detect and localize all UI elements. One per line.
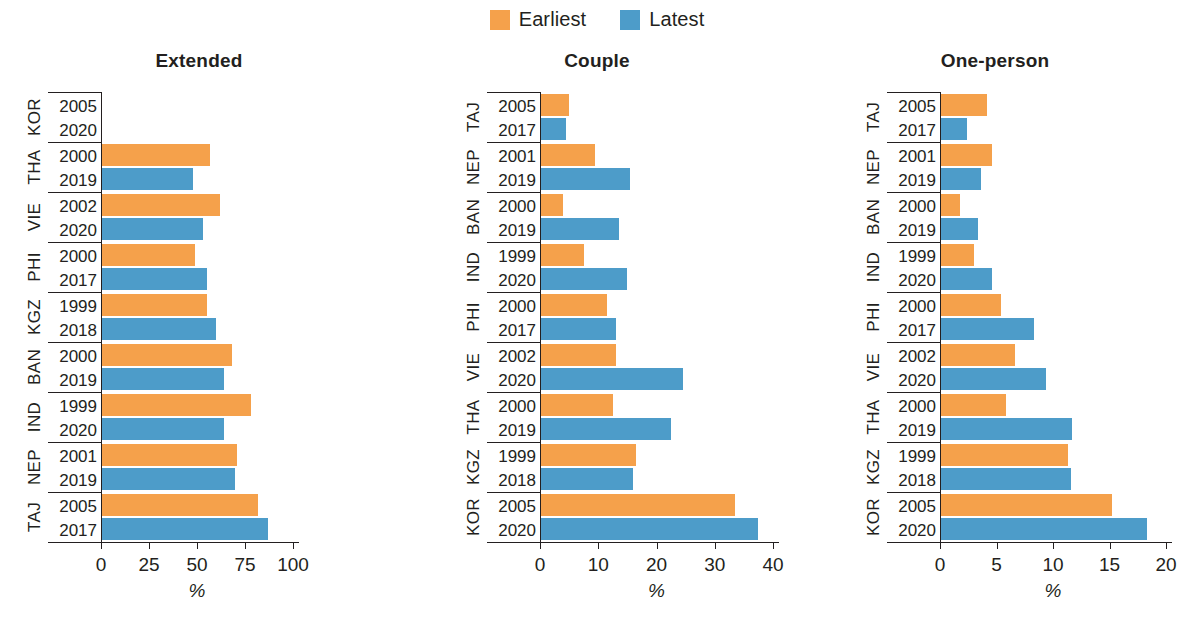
country-label-text: PHI xyxy=(464,302,484,332)
country-label: THA xyxy=(861,392,887,442)
bar-earliest xyxy=(101,244,195,266)
bar-earliest xyxy=(540,144,595,166)
x-axis-tick-label: 10 xyxy=(588,554,609,576)
country-label: TAJ xyxy=(461,92,487,142)
bar-earliest xyxy=(940,344,1015,366)
country-label-column: TAJNEPBANINDPHIVIETHAKGZKOR xyxy=(861,44,887,636)
country-label-text: BAN xyxy=(464,199,484,235)
x-axis-tick xyxy=(598,543,599,549)
bar-earliest xyxy=(540,194,563,216)
x-axis-tick xyxy=(293,543,294,549)
country-label-text: NEP xyxy=(464,149,484,185)
country-label: THA xyxy=(461,392,487,442)
year-label-earliest: 2000 xyxy=(487,398,536,415)
x-axis-tick-label: 50 xyxy=(186,554,207,576)
bar-earliest xyxy=(940,94,987,116)
country-label-text: KOR xyxy=(25,98,45,136)
x-axis-tick-label: 75 xyxy=(234,554,255,576)
country-label-text: KGZ xyxy=(464,449,484,485)
bar-earliest xyxy=(940,494,1112,516)
year-label-latest: 2017 xyxy=(887,122,936,139)
bar-latest xyxy=(540,468,633,490)
bar-earliest xyxy=(940,244,974,266)
country-label: VIE xyxy=(461,342,487,392)
bar-latest xyxy=(940,118,967,140)
country-label-text: THA xyxy=(864,399,884,434)
x-axis-tick xyxy=(715,543,716,549)
bar-latest xyxy=(540,368,683,390)
bar-earliest xyxy=(101,444,237,466)
x-axis-tick xyxy=(657,543,658,549)
country-label: THA xyxy=(22,142,48,192)
country-label-text: KGZ xyxy=(25,299,45,335)
country-label: KOR xyxy=(461,492,487,542)
country-label-text: THA xyxy=(464,399,484,434)
year-label-latest: 2020 xyxy=(487,522,536,539)
year-label-earliest: 1999 xyxy=(487,448,536,465)
bar-earliest xyxy=(101,344,232,366)
year-label-earliest: 2001 xyxy=(487,148,536,165)
x-axis-tick xyxy=(101,543,102,549)
year-label-earliest: 2005 xyxy=(48,98,97,115)
year-label-latest: 2020 xyxy=(887,372,936,389)
year-label-earliest: 2000 xyxy=(487,198,536,215)
bar-latest xyxy=(540,218,619,240)
year-label-earliest: 1999 xyxy=(487,248,536,265)
country-label: IND xyxy=(22,392,48,442)
y-axis-line xyxy=(101,92,102,542)
chart-panels: Extended0255075100%KORTHAVIEPHIKGZBANIND… xyxy=(0,44,1194,636)
bar-latest xyxy=(940,368,1046,390)
year-label-latest: 2020 xyxy=(48,222,97,239)
panel-extended: Extended0255075100%KORTHAVIEPHIKGZBANIND… xyxy=(0,44,398,636)
legend-item-latest: Latest xyxy=(620,8,704,31)
bar-earliest xyxy=(101,494,258,516)
country-label-text: NEP xyxy=(25,449,45,485)
bar-earliest xyxy=(540,394,613,416)
x-axis-tick xyxy=(773,543,774,549)
x-axis-tick-label: 15 xyxy=(1099,554,1120,576)
x-axis-tick-label: 10 xyxy=(1042,554,1063,576)
year-label-earliest: 2005 xyxy=(487,98,536,115)
x-axis-tick-label: 30 xyxy=(704,554,725,576)
bar-latest xyxy=(940,318,1034,340)
x-axis-tick-label: 100 xyxy=(277,554,309,576)
country-label-column: KORTHAVIEPHIKGZBANINDNEPTAJ xyxy=(22,44,48,636)
country-label: KGZ xyxy=(22,292,48,342)
country-label-text: TAJ xyxy=(464,102,484,132)
country-label-text: BAN xyxy=(25,349,45,385)
bar-latest xyxy=(101,418,224,440)
x-axis-unit-label: % xyxy=(1045,580,1062,602)
year-label-earliest: 2000 xyxy=(48,148,97,165)
country-label-column: TAJNEPBANINDPHIVIETHAKGZKOR xyxy=(461,44,487,636)
chart-legend: EarliestLatest xyxy=(0,8,1194,31)
year-label-earliest: 2000 xyxy=(887,198,936,215)
bar-earliest xyxy=(940,294,1001,316)
bar-latest xyxy=(940,168,981,190)
plot-area: 05101520%TAJNEPBANINDPHIVIETHAKGZKOR2005… xyxy=(796,44,1194,636)
bar-latest xyxy=(101,318,216,340)
year-label-earliest: 2002 xyxy=(48,198,97,215)
year-label-column: 2005202020002019200220202000201719992018… xyxy=(48,44,100,636)
legend-label-earliest: Earliest xyxy=(519,8,587,31)
bar-latest xyxy=(940,518,1147,540)
year-label-latest: 2019 xyxy=(887,422,936,439)
year-label-latest: 2017 xyxy=(487,122,536,139)
bar-latest xyxy=(101,368,224,390)
country-label: BAN xyxy=(22,342,48,392)
bar-earliest xyxy=(540,94,569,116)
country-label: KOR xyxy=(861,492,887,542)
year-label-latest: 2019 xyxy=(48,472,97,489)
x-axis-tick xyxy=(1110,543,1111,549)
country-label: BAN xyxy=(461,192,487,242)
country-label: NEP xyxy=(22,442,48,492)
country-label: TAJ xyxy=(22,492,48,542)
bar-latest xyxy=(940,468,1071,490)
x-axis-tick-label: 5 xyxy=(991,554,1002,576)
year-label-earliest: 2002 xyxy=(487,348,536,365)
country-label: PHI xyxy=(861,292,887,342)
bar-latest xyxy=(101,168,193,190)
x-axis-tick xyxy=(940,543,941,549)
year-label-latest: 2020 xyxy=(887,272,936,289)
x-axis-unit-label: % xyxy=(189,580,206,602)
bar-latest xyxy=(540,268,627,290)
